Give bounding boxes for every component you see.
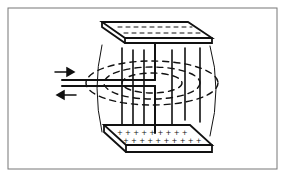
capacitor-diagram: + + + + + + + + + + + + + + + + + + + <box>0 0 286 178</box>
svg-text:+ + + + + + + + + +: + + + + + + + + + + <box>123 137 202 145</box>
field-line-right-outer <box>210 46 216 136</box>
wire <box>62 44 155 132</box>
field-line-left-outer <box>97 45 102 132</box>
arrow-right-icon <box>55 68 74 76</box>
arrow-left-icon <box>57 91 76 99</box>
electric-field-lines <box>122 48 200 130</box>
svg-text:+ + + + + + + + +: + + + + + + + + + <box>117 129 188 137</box>
magnetic-field-loops <box>86 61 218 105</box>
